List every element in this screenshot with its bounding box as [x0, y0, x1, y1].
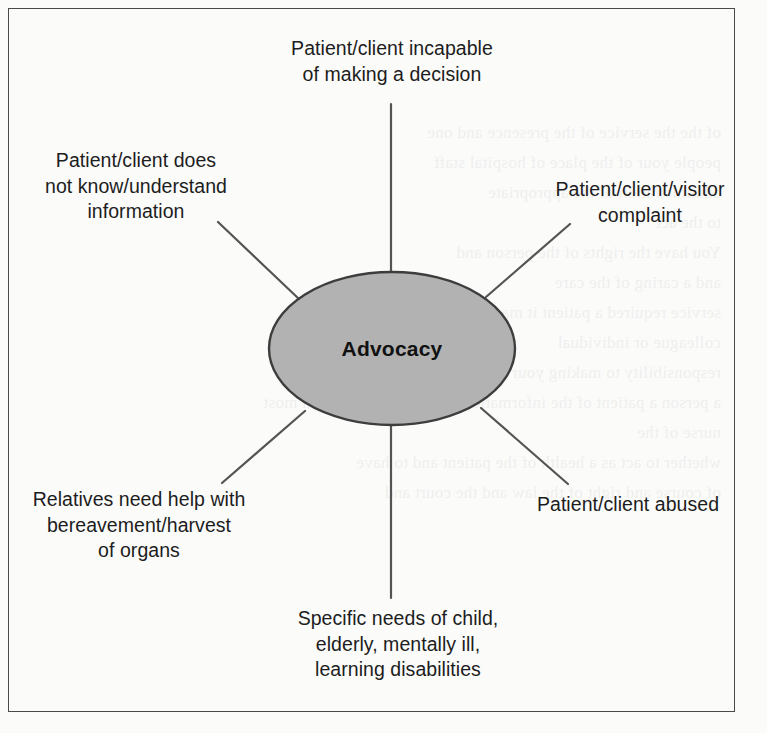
node-label-upper-right: Patient/client/visitor complaint	[520, 177, 760, 228]
node-label-lower-left: Relatives need help with bereavement/har…	[8, 487, 270, 564]
diagram-page: of the the service of the presence and o…	[0, 0, 767, 733]
node-label-top: Patient/client incapable of making a dec…	[252, 36, 532, 87]
node-label-upper-left: Patient/client does not know/understand …	[12, 148, 260, 225]
center-node-label: Advocacy	[268, 272, 516, 425]
node-label-lower-right: Patient/client abused	[508, 492, 748, 518]
node-label-bottom: Specific needs of child, elderly, mental…	[258, 606, 538, 683]
